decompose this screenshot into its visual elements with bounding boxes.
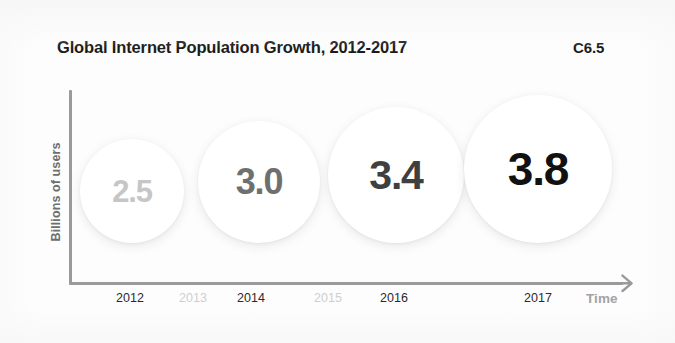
bubble-value-label: 2.5 — [112, 176, 152, 207]
bubble-2016[interactable]: 3.4 — [328, 107, 464, 243]
bubble-2014[interactable]: 3.0 — [198, 121, 320, 243]
chart-figure: Global Internet Population Growth, 2012-… — [0, 0, 675, 343]
bubble-value-label: 3.4 — [369, 155, 422, 196]
bubble-series: 2.53.03.43.8 — [0, 0, 675, 343]
bubble-value-label: 3.0 — [236, 164, 282, 200]
bubble-2012[interactable]: 2.5 — [80, 139, 184, 243]
bubble-2017[interactable]: 3.8 — [464, 95, 612, 243]
bubble-value-label: 3.8 — [508, 146, 568, 192]
